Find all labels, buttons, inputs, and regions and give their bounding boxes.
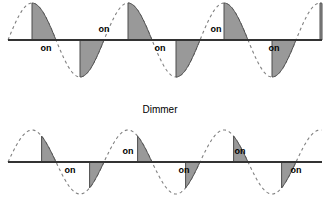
on-label: on bbox=[65, 165, 76, 175]
full-brightness-waveform: ononononon bbox=[8, 3, 322, 77]
dimmer-title-label: Dimmer bbox=[143, 104, 179, 115]
conduction-region bbox=[138, 136, 152, 162]
conduction-region bbox=[80, 40, 104, 77]
on-label: on bbox=[235, 146, 246, 156]
conduction-region bbox=[176, 40, 200, 77]
on-label: on bbox=[211, 24, 222, 34]
dimmer-waveform-diagram: ononononon Dimmer ononononon bbox=[0, 0, 334, 209]
on-label: on bbox=[291, 165, 302, 175]
conduction-region bbox=[32, 3, 56, 40]
on-label: on bbox=[41, 43, 52, 53]
conduction-region bbox=[320, 3, 322, 40]
on-label: on bbox=[123, 146, 134, 156]
on-label: on bbox=[99, 24, 110, 34]
conduction-region bbox=[224, 3, 248, 40]
conduction-region bbox=[42, 136, 56, 162]
dimmer-waveform: ononononon bbox=[8, 130, 322, 194]
on-label: on bbox=[269, 43, 280, 53]
on-label: on bbox=[155, 43, 166, 53]
waveform-canvas: ononononon Dimmer ononononon bbox=[0, 0, 334, 209]
conduction-region bbox=[90, 162, 104, 188]
conduction-region bbox=[128, 3, 152, 40]
on-label: on bbox=[179, 165, 190, 175]
